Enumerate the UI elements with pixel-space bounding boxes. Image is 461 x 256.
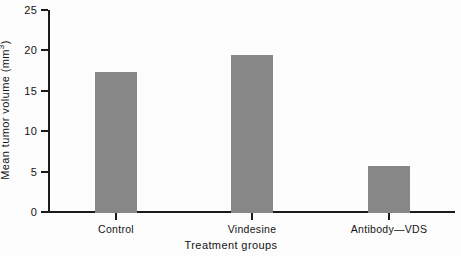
x-axis-category-label: Control [98,223,134,235]
y-axis-title-text: Mean tumor volume (mm [0,49,11,180]
bar [95,72,137,213]
bar-chart: Mean tumor volume (mm3) 0 5 10 15 20 25 … [0,0,461,256]
bar [368,166,410,213]
y-axis-tick: 0 [41,211,48,213]
y-axis-tick: 15 [41,90,48,92]
y-axis-tick: 20 [41,49,48,51]
x-axis-category-label: Vindesine [228,223,277,235]
x-axis-category-label: Antibody—VDS [351,223,428,235]
y-axis-tick-label: 5 [31,165,37,177]
y-axis-tick-label: 15 [24,85,37,97]
y-axis-title-superscript: 3 [0,44,6,49]
x-axis-tick [388,213,390,220]
y-axis-title-tail: ) [0,40,11,44]
bar [231,55,273,213]
x-axis-tick [251,213,253,220]
y-axis-tick-label: 25 [24,4,37,16]
y-axis-tick: 5 [41,171,48,173]
y-axis-tick-label: 10 [24,125,37,137]
x-axis-title: Treatment groups [185,239,278,251]
x-axis-tick [115,213,117,220]
y-axis-tick-label: 20 [24,44,37,56]
y-axis-tick-label: 0 [31,206,37,218]
y-axis-tick: 25 [41,9,48,11]
y-axis-title: Mean tumor volume (mm3) [0,40,11,180]
y-axis-line [48,10,50,213]
y-axis-tick: 10 [41,130,48,132]
